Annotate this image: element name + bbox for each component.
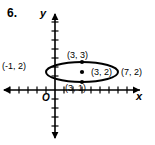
y-axis-label: y (40, 8, 46, 19)
point-covertex-top (80, 60, 84, 64)
point-center (80, 70, 84, 74)
point-label-covertex-top: (3, 3) (67, 51, 88, 60)
point-label-vertex-left: (-1, 2) (2, 62, 26, 71)
point-label-center: (3, 2) (91, 68, 112, 77)
ellipse-figure: 6. (0, 0, 155, 145)
point-label-covertex-bottom: (3, 1) (65, 84, 86, 93)
point-label-vertex-right: (7, 2) (121, 68, 142, 77)
origin-label: O (42, 93, 50, 103)
x-axis-label: x (136, 91, 142, 102)
